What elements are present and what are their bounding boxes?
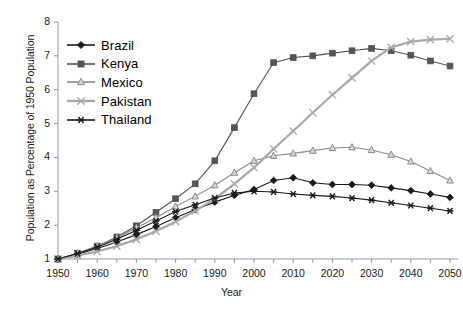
legend-label: Kenya [101, 56, 138, 71]
legend-label: Brazil [101, 38, 134, 53]
legend-label: Thailand [101, 112, 152, 127]
legend-label: Pakistan [101, 94, 152, 109]
x-tick-label: 1980 [156, 267, 196, 279]
legend-item-pakistan[interactable]: Pakistan [66, 92, 152, 111]
x-tick-label: 2050 [430, 267, 463, 279]
legend-item-brazil[interactable]: Brazil [66, 36, 152, 55]
y-tick-label: 2 [28, 218, 50, 230]
x-tick-label: 1950 [38, 267, 78, 279]
x-tick-label: 2020 [312, 267, 352, 279]
y-tick-label: 8 [28, 15, 50, 27]
chart-legend: BrazilKenyaMexicoPakistanThailand [66, 36, 152, 129]
y-tick-label: 1 [28, 252, 50, 264]
x-tick-label: 1960 [77, 267, 117, 279]
legend-item-thailand[interactable]: Thailand [66, 110, 152, 129]
y-tick-label: 4 [28, 150, 50, 162]
legend-item-mexico[interactable]: Mexico [66, 73, 152, 92]
x-tick-label: 1970 [116, 267, 156, 279]
x-tick-label: 2030 [352, 267, 392, 279]
series-thailand [55, 188, 454, 262]
legend-label: Mexico [101, 75, 143, 90]
x-tick-label: 1990 [195, 267, 235, 279]
cross-marker-icon [66, 94, 96, 108]
x-tick-label: 2010 [273, 267, 313, 279]
x-tick-label: 2040 [391, 267, 431, 279]
y-tick-label: 7 [28, 49, 50, 61]
x-axis-label: Year [0, 286, 463, 298]
legend-item-kenya[interactable]: Kenya [66, 55, 152, 74]
population-growth-line-chart: Population as Percentage of 1950 Populat… [0, 0, 463, 310]
y-tick-label: 6 [28, 83, 50, 95]
diamond-marker-icon [66, 38, 96, 52]
star-marker-icon [66, 113, 96, 127]
x-tick-label: 2000 [234, 267, 274, 279]
y-tick-label: 3 [28, 184, 50, 196]
y-tick-label: 5 [28, 117, 50, 129]
triangle-marker-icon [66, 75, 96, 89]
square-marker-icon [66, 57, 96, 71]
